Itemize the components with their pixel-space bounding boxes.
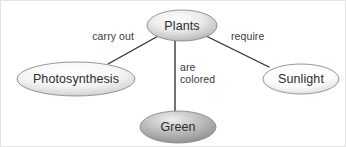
- concept-map-diagram: Plants Photosynthesis Sunlight Green car…: [0, 0, 346, 147]
- edge-label-are-colored-line2: colored: [180, 73, 215, 85]
- edge-label-carry-out: carry out: [92, 30, 134, 42]
- diagram-canvas: Plants Photosynthesis Sunlight Green car…: [1, 1, 346, 147]
- node-photosynthesis[interactable]: Photosynthesis: [17, 62, 135, 96]
- plants-label: Plants: [164, 19, 199, 33]
- photosynthesis-label: Photosynthesis: [33, 72, 119, 86]
- sunlight-label: Sunlight: [278, 72, 324, 86]
- green-label: Green: [160, 120, 195, 134]
- edge-label-require: require: [231, 30, 264, 42]
- edge-label-are-colored-line1: are: [180, 61, 196, 73]
- node-plants[interactable]: Plants: [147, 10, 217, 41]
- node-sunlight[interactable]: Sunlight: [263, 64, 339, 94]
- node-green[interactable]: Green: [140, 111, 216, 143]
